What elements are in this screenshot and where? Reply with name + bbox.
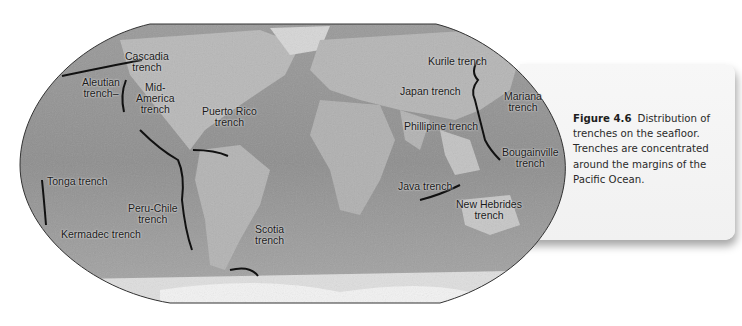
label-aleutian-trench: Aleutian trench–	[82, 77, 120, 99]
label-line: trench–	[82, 88, 120, 99]
label-line: trench	[128, 214, 178, 225]
label-line: Kurile trench	[428, 56, 487, 67]
label-line: trench	[136, 104, 175, 115]
label-kurile-trench: Kurile trench	[428, 56, 487, 67]
caption-line: Trenches are concentrated	[573, 143, 709, 154]
label-tonga-trench: Tonga trench	[47, 176, 108, 187]
label-line: trench	[255, 235, 284, 246]
label-cascadia-trench: Cascadia trench	[125, 51, 169, 73]
label-line: trench	[125, 62, 169, 73]
figure-caption: Figure 4.6Distribution of trenches on th…	[573, 111, 733, 187]
label-new-hebrides-trench: New Hebrides trench	[456, 199, 522, 221]
label-bougainville-trench: Bougainville trench	[502, 147, 559, 169]
label-line: trench	[456, 210, 522, 221]
label-scotia-trench: Scotia trench	[255, 224, 284, 246]
label-puerto-rico-trench: Puerto Rico trench	[202, 106, 257, 128]
label-line: trench	[504, 102, 542, 113]
label-line: Tonga trench	[47, 176, 108, 187]
label-japan-trench: Japan trench	[400, 86, 461, 97]
label-line: trench	[502, 158, 559, 169]
label-peru-chile-trench: Peru-Chile trench	[128, 203, 178, 225]
label-line: trench	[202, 117, 257, 128]
label-line: Japan trench	[400, 86, 461, 97]
caption-line: Pacific Ocean.	[573, 174, 644, 185]
label-kermadec-trench: Kermadec trench	[61, 229, 141, 240]
label-java-trench: Java trench	[398, 181, 452, 192]
label-mid-america-trench: Mid- America trench	[136, 82, 175, 115]
label-line: Phillipine trench	[404, 121, 478, 132]
figure-number: Figure 4.6	[573, 113, 632, 124]
label-mariana-trench: Mariana trench	[504, 91, 542, 113]
caption-line: trenches on the seafloor.	[573, 128, 700, 139]
label-line: Java trench	[398, 181, 452, 192]
caption-line: Distribution of	[638, 113, 711, 124]
label-phillipine-trench: Phillipine trench	[404, 121, 478, 132]
caption-line: around the margins of the	[573, 159, 706, 170]
label-line: Kermadec trench	[61, 229, 141, 240]
